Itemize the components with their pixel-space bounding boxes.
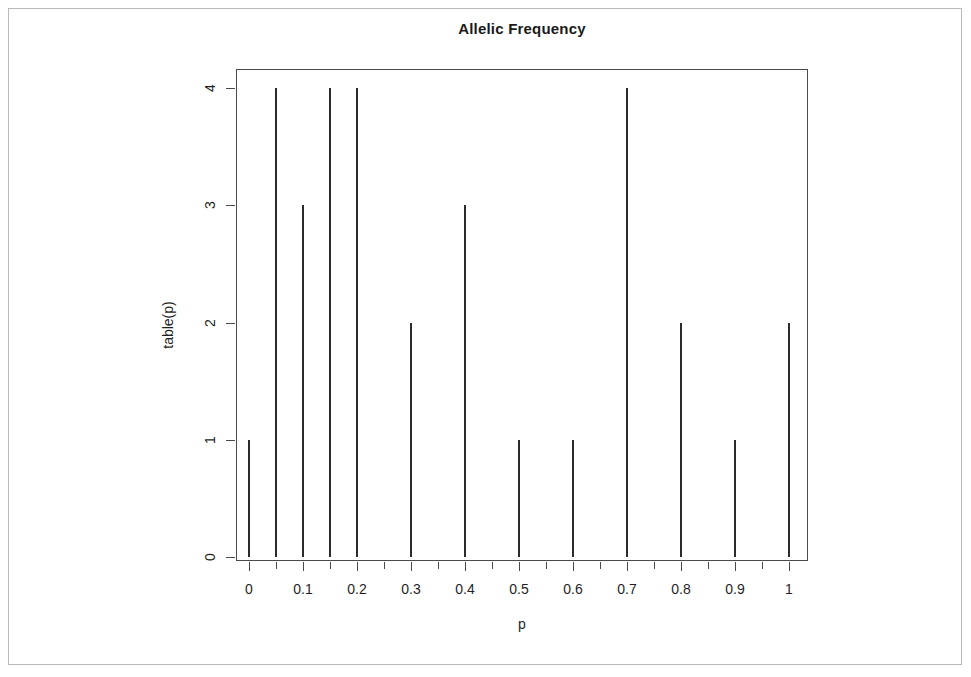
x-axis-tick — [303, 562, 304, 571]
bar — [410, 323, 412, 558]
x-axis-tick — [357, 562, 358, 571]
screenshot-page: Allelic Frequency 00.10.20.30.40.50.60.7… — [0, 0, 971, 677]
x-axis-tick — [573, 562, 574, 571]
x-axis-tick-label: 0.6 — [563, 581, 582, 597]
y-axis-tick-label: 0 — [202, 553, 218, 561]
x-axis-tick-minor — [492, 562, 493, 569]
x-axis-tick-minor — [438, 562, 439, 569]
x-axis-tick-minor — [708, 562, 709, 569]
y-axis-tick — [226, 557, 235, 558]
y-axis-tick-label: 4 — [202, 84, 218, 92]
x-axis-tick — [681, 562, 682, 571]
x-axis-label: p — [236, 616, 808, 632]
x-axis-tick-minor — [762, 562, 763, 569]
y-axis-tick — [226, 323, 235, 324]
x-axis-tick-label: 0.9 — [725, 581, 744, 597]
plot-area — [236, 69, 808, 561]
y-axis-label: table(p) — [160, 301, 176, 348]
x-axis-tick — [735, 562, 736, 571]
x-axis-tick — [789, 562, 790, 571]
chart-title: Allelic Frequency — [236, 20, 808, 37]
x-axis-tick — [411, 562, 412, 571]
bar — [788, 323, 790, 558]
y-axis-tick-label: 1 — [202, 436, 218, 444]
x-axis-tick-minor — [276, 562, 277, 569]
bar — [518, 440, 520, 557]
x-axis-tick-label: 0.8 — [671, 581, 690, 597]
y-axis-tick-label: 2 — [202, 319, 218, 327]
bar — [572, 440, 574, 557]
y-axis-tick — [226, 205, 235, 206]
x-axis-tick-minor — [546, 562, 547, 569]
x-axis-tick-minor — [654, 562, 655, 569]
x-axis-tick — [519, 562, 520, 571]
x-axis-tick-label: 0.4 — [455, 581, 474, 597]
bar — [356, 88, 358, 557]
x-axis-tick-label: 0 — [245, 581, 253, 597]
x-axis-tick-label: 0.2 — [347, 581, 366, 597]
bar — [680, 323, 682, 558]
x-axis-tick-label: 0.1 — [293, 581, 312, 597]
x-axis-tick-minor — [330, 562, 331, 569]
y-axis-tick-label: 3 — [202, 201, 218, 209]
bar — [275, 88, 277, 557]
bar — [464, 205, 466, 557]
bar — [734, 440, 736, 557]
x-axis-tick-label: 0.5 — [509, 581, 528, 597]
x-axis-tick-label: 0.7 — [617, 581, 636, 597]
x-axis-tick-label: 0.3 — [401, 581, 420, 597]
y-axis-tick — [226, 440, 235, 441]
bar — [248, 440, 250, 557]
x-axis-tick-minor — [384, 562, 385, 569]
x-axis-tick — [627, 562, 628, 571]
x-axis-tick-label: 1 — [785, 581, 793, 597]
bar — [302, 205, 304, 557]
x-axis-tick-minor — [600, 562, 601, 569]
x-axis-tick — [465, 562, 466, 571]
bar — [329, 88, 331, 557]
y-axis-tick — [226, 88, 235, 89]
bar — [626, 88, 628, 557]
chart-figure: Allelic Frequency 00.10.20.30.40.50.60.7… — [0, 0, 971, 677]
x-axis-tick — [249, 562, 250, 571]
